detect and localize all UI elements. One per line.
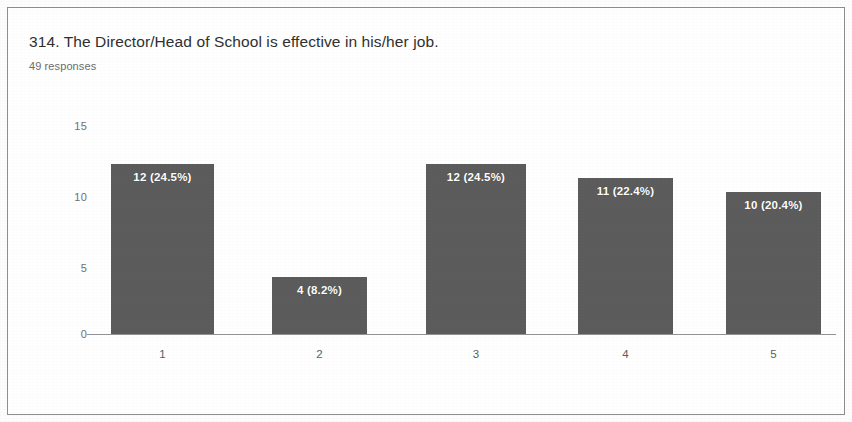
- x-axis-tick-4: 4: [578, 348, 673, 360]
- bar-category-4[interactable]: [578, 178, 673, 334]
- y-axis-tick-0: 0: [53, 329, 87, 340]
- bar-category-1[interactable]: [111, 164, 214, 334]
- x-axis-tick-3: 3: [426, 348, 526, 360]
- x-axis-tick-5: 5: [726, 348, 821, 360]
- y-axis-tick-15: 15: [53, 121, 87, 132]
- bar-chart-plot-area: 15 10 5 0 12 (24.5%) 4 (8.2%) 12 (24.5%)…: [8, 8, 846, 416]
- y-axis-tick-5: 5: [53, 263, 87, 274]
- y-axis-tick-10: 10: [53, 192, 87, 203]
- bar-category-5[interactable]: [726, 192, 821, 334]
- bar-value-label-1: 12 (24.5%): [111, 171, 214, 183]
- bar-value-label-2: 4 (8.2%): [272, 284, 367, 296]
- bar-category-3[interactable]: [426, 164, 526, 334]
- x-axis-line: [87, 334, 836, 335]
- x-axis-tick-2: 2: [272, 348, 367, 360]
- survey-question-card: 314. The Director/Head of School is effe…: [7, 7, 845, 415]
- scanned-page: 314. The Director/Head of School is effe…: [0, 0, 852, 422]
- bar-value-label-3: 12 (24.5%): [426, 171, 526, 183]
- bar-value-label-4: 11 (22.4%): [578, 185, 673, 197]
- bar-value-label-5: 10 (20.4%): [726, 199, 821, 211]
- x-axis-tick-1: 1: [111, 348, 214, 360]
